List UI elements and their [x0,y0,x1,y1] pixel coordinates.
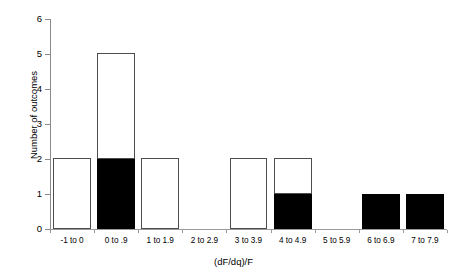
bar-segment-unfilled [97,53,135,159]
bar-group [230,19,268,229]
plot-area [50,19,447,229]
bar-group [53,19,91,229]
x-tick-label: 6 to 6.9 [359,236,403,245]
x-tick-mark [359,230,360,233]
x-tick-label: 7 to 7.9 [403,236,447,245]
x-tick-label: 5 to 5.9 [315,236,359,245]
bar-group [274,19,312,229]
x-tick-label: 3 to 3.9 [226,236,270,245]
x-tick-mark [447,230,448,233]
bar-segment-unfilled [230,158,268,229]
x-tick-label: 4 to 4.9 [271,236,315,245]
x-axis-title: (dF/dq)/F [0,256,467,267]
x-tick-mark [94,230,95,233]
bar-group [141,19,179,229]
x-tick-mark [315,230,316,233]
x-tick-mark [182,230,183,233]
x-tick-mark [271,230,272,233]
bar-segment-unfilled [274,158,312,194]
bar-group [362,19,400,229]
x-tick-label: 2 to 2.9 [182,236,226,245]
x-tick-label: 0 to .9 [94,236,138,245]
histogram-figure: Number of outcomes 0123456 -1 to 00 to .… [0,0,467,279]
bar-group [406,19,444,229]
y-tick-label: 6 [22,14,42,24]
x-tick-mark [403,230,404,233]
bar-segment-filled [406,194,444,229]
bar-segment-unfilled [141,158,179,229]
bar-segment-filled [97,159,135,229]
bar-segment-unfilled [53,158,91,229]
bar-segment-filled [274,194,312,229]
y-tick-label: 0 [22,224,42,234]
x-tick-label: 1 to 1.9 [138,236,182,245]
bar-group [97,19,135,229]
x-tick-mark [50,230,51,233]
x-tick-mark [138,230,139,233]
y-tick-label: 3 [22,119,42,129]
y-tick-label: 4 [22,84,42,94]
y-tick-label: 5 [22,49,42,59]
x-tick-mark [226,230,227,233]
x-tick-label: -1 to 0 [50,236,94,245]
bar-segment-filled [362,194,400,229]
y-tick-label: 2 [22,154,42,164]
y-tick-label: 1 [22,189,42,199]
x-axis-line [50,229,447,230]
